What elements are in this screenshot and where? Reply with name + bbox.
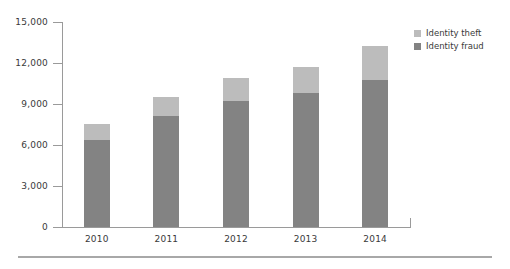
stacked-bar-chart: 03,0006,0009,00012,00015,000 20102011201… (0, 0, 510, 269)
legend-item[interactable]: Identity fraud (414, 40, 484, 53)
bar-group-2011[interactable] (153, 97, 179, 227)
bar-segment-identity-theft[interactable] (223, 78, 249, 101)
y-axis-tick (53, 227, 63, 228)
bar-segment-identity-fraud[interactable] (84, 140, 110, 227)
y-axis-tick-label: 12,000 (15, 58, 48, 68)
legend-item[interactable]: Identity theft (414, 27, 484, 40)
x-axis-tick-label-2013: 2013 (271, 234, 341, 244)
x-axis-right-cap (410, 218, 411, 228)
y-axis-tick-label: 15,000 (15, 17, 48, 27)
chart-legend: Identity theftIdentity fraud (414, 27, 484, 53)
bar-group-2010[interactable] (84, 124, 110, 227)
y-axis-tick-label: 3,000 (21, 181, 48, 191)
plot-area (62, 22, 410, 227)
bar-segment-identity-theft[interactable] (84, 124, 110, 140)
bar-segment-identity-fraud[interactable] (223, 101, 249, 227)
legend-label: Identity theft (426, 27, 481, 40)
bar-segment-identity-theft[interactable] (362, 46, 388, 80)
x-axis-tick-label-2010: 2010 (62, 234, 132, 244)
x-axis-tick-label-2012: 2012 (201, 234, 271, 244)
bar-group-2014[interactable] (362, 46, 388, 227)
y-axis-tick-label: 0 (42, 222, 48, 232)
x-axis-tick-label-2014: 2014 (340, 234, 410, 244)
y-axis-tick-label: 6,000 (21, 140, 48, 150)
bar-segment-identity-theft[interactable] (153, 97, 179, 116)
bar-segment-identity-fraud[interactable] (153, 116, 179, 227)
bar-segment-identity-fraud[interactable] (362, 80, 388, 227)
bar-group-2012[interactable] (223, 78, 249, 227)
bar-segment-identity-theft[interactable] (293, 67, 319, 93)
legend-swatch-icon (414, 43, 421, 50)
legend-swatch-icon (414, 30, 421, 37)
bar-group-2013[interactable] (293, 67, 319, 227)
bar-segment-identity-fraud[interactable] (293, 93, 319, 227)
x-axis-tick-label-2011: 2011 (131, 234, 201, 244)
y-axis-tick-label: 9,000 (21, 99, 48, 109)
legend-label: Identity fraud (426, 40, 484, 53)
footer-divider (18, 256, 492, 258)
x-axis-line (62, 227, 411, 228)
